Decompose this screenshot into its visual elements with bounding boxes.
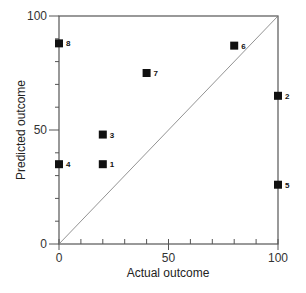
x-tick-label: 100 [268, 251, 288, 265]
y-tick-label: 100 [27, 9, 47, 23]
point-label: 6 [241, 42, 246, 51]
square-marker-icon [99, 160, 107, 168]
point-label: 2 [285, 92, 290, 101]
x-axis-label: Actual outcome [127, 266, 210, 280]
scatter-chart: 050100050100 12345678 Actual outcome Pre… [0, 0, 306, 293]
data-point: 4 [55, 160, 71, 169]
point-label: 8 [66, 39, 71, 48]
square-marker-icon [230, 42, 238, 50]
square-marker-icon [99, 131, 107, 139]
square-marker-icon [274, 181, 282, 189]
point-label: 7 [154, 69, 159, 78]
data-point: 5 [274, 181, 290, 190]
data-point: 1 [99, 160, 115, 169]
y-tick-label: 0 [40, 237, 47, 251]
point-label: 1 [110, 160, 115, 169]
square-marker-icon [143, 69, 151, 77]
point-label: 3 [110, 131, 115, 140]
square-marker-icon [55, 160, 63, 168]
data-point: 2 [274, 92, 290, 101]
data-point: 6 [230, 42, 246, 51]
square-marker-icon [274, 92, 282, 100]
point-label: 4 [66, 160, 71, 169]
data-point: 3 [99, 131, 115, 140]
x-tick-label: 0 [56, 251, 63, 265]
x-tick-label: 50 [162, 251, 176, 265]
data-point: 7 [143, 69, 159, 78]
data-point: 8 [55, 39, 71, 48]
y-axis-label: Predicted outcome [14, 80, 28, 180]
point-label: 5 [285, 181, 290, 190]
data-points: 12345678 [55, 39, 290, 189]
y-tick-label: 50 [34, 123, 48, 137]
square-marker-icon [55, 39, 63, 47]
